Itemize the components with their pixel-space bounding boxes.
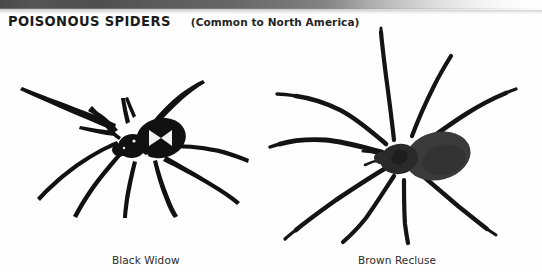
brown-recluse-body	[374, 125, 476, 188]
illustration-page: POISONOUS SPIDERS (Common to North Ameri…	[0, 0, 542, 272]
figure-brown-recluse	[268, 22, 518, 247]
caption-black-widow: Black Widow	[112, 254, 180, 266]
caption-brown-recluse: Brown Recluse	[358, 254, 436, 266]
page-title: POISONOUS SPIDERS	[8, 13, 171, 29]
scan-edge-taper	[0, 0, 542, 10]
figure-black-widow	[20, 78, 250, 218]
brown-recluse-legs	[270, 28, 516, 243]
